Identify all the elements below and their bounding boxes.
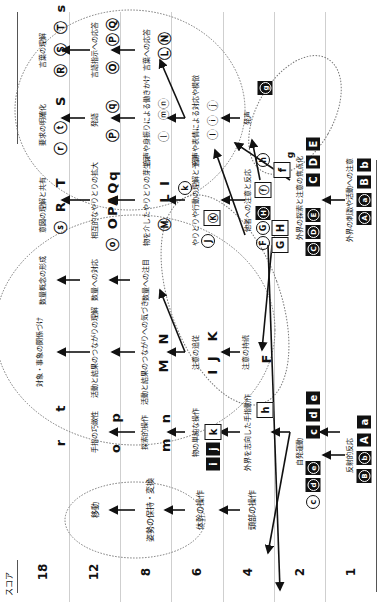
label-request-clarify: 要求の明確化 bbox=[39, 104, 47, 146]
sym-H-black: H bbox=[256, 206, 271, 220]
sym-a: a bbox=[357, 416, 371, 429]
sym-g-small: g bbox=[286, 152, 295, 158]
sym-h-circ: h bbox=[256, 153, 270, 167]
sym-b-circ: b bbox=[357, 451, 372, 465]
sym-e-circ: e bbox=[306, 461, 321, 475]
sym-k: k bbox=[205, 424, 222, 440]
sym-L-N: ⓁⓃ bbox=[160, 30, 169, 60]
sym-o-p: o p bbox=[111, 411, 120, 453]
label-vocal-gesture: 音声や身振りによる働きかけ bbox=[143, 75, 151, 166]
sym-r-t: r t bbox=[56, 404, 65, 447]
label-finger-dexterity: 手指の巧緻性 bbox=[91, 411, 99, 453]
score-6: 6 bbox=[193, 568, 202, 576]
label-activity-result-awareness: 活動と結果のつながりへの気づき bbox=[141, 300, 149, 405]
label-attention-sustain: 注意の持続 bbox=[242, 335, 250, 370]
sym-C-circ: C bbox=[306, 242, 321, 256]
score-18: 18 bbox=[39, 564, 48, 581]
sym-j: j bbox=[206, 443, 220, 456]
score-8: 8 bbox=[142, 568, 151, 576]
score-12: 12 bbox=[90, 564, 99, 581]
sym-H-box: H bbox=[272, 220, 289, 236]
label-vocal-imitation: 音声や表情による対応や模倣 bbox=[192, 75, 200, 166]
sym-B-circ: B bbox=[357, 469, 372, 483]
sym-g-black: g bbox=[258, 81, 273, 95]
score-4: 4 bbox=[244, 568, 253, 576]
sym-M-N: M N bbox=[159, 332, 168, 373]
score-2: 2 bbox=[296, 568, 305, 576]
sym-s-R-T: ⓢ R T bbox=[56, 176, 65, 233]
sym-F: F bbox=[262, 353, 271, 364]
label-exploration-focus: 外界の探索と注意の焦点化 bbox=[296, 156, 304, 240]
sym-R-S-T-s: Ⓡ Ⓢ Ⓣ s bbox=[56, 3, 65, 77]
label-outward-hand: 外界を志向した手指動作 bbox=[244, 394, 252, 471]
label-word-response: 言葉への応答 bbox=[143, 29, 151, 71]
sym-I-i-j: Ⓘ ⓘ ⓙ bbox=[209, 100, 218, 140]
sym-C: C bbox=[306, 174, 320, 187]
sym-c: c bbox=[306, 426, 320, 439]
sym-I-J-K: I J K bbox=[208, 329, 217, 374]
sym-d: d bbox=[306, 409, 320, 422]
label-number-concept: 数量概念の形成 bbox=[39, 256, 47, 305]
sym-f-circ-box: ⓕ bbox=[255, 182, 272, 198]
label-stimulus-attention: 外界の刺激や活動への注意 bbox=[346, 158, 354, 242]
sym-d-circ: d bbox=[306, 478, 321, 492]
sym-G-box: G bbox=[272, 237, 289, 253]
label-speech: 発語 bbox=[91, 113, 99, 127]
label-activity-result-understanding: 活動と結果のつながりの理解 bbox=[91, 307, 99, 398]
sym-M-L-I: Ⓜ L I bbox=[160, 179, 169, 231]
label-head: 頭部の操作 bbox=[248, 490, 257, 530]
sym-A: A bbox=[357, 434, 371, 447]
label-locomotion: 移動 bbox=[91, 502, 100, 518]
sym-O-P-Q: Ⓞ ⓅⓆ bbox=[108, 16, 117, 74]
label-intent-sharing: 意図の理解と共有 bbox=[39, 177, 47, 233]
label-trunk: 体幹の操作 bbox=[196, 490, 205, 530]
label-simple-manip: 物の単純な操作 bbox=[192, 408, 200, 457]
sym-i: i bbox=[206, 458, 220, 471]
label-mutual-exchange: 相互的なやりとりの拡大 bbox=[91, 162, 99, 239]
label-relating: 対象・事象の関係づけ bbox=[36, 317, 44, 387]
score-1: 1 bbox=[347, 568, 356, 576]
label-object-exchange: 物を介したやりとりの芽生え bbox=[143, 155, 151, 246]
label-spontaneous: 自発運動 bbox=[296, 438, 304, 466]
label-predict-behavior: やりとりや行動の理解と予測 bbox=[192, 155, 200, 246]
sym-E-circ: E bbox=[306, 208, 321, 222]
sym-F-circ: F bbox=[256, 236, 270, 250]
label-word-understanding: 言葉の理解 bbox=[39, 33, 47, 68]
label-number-attention: 数量への注目 bbox=[142, 259, 150, 301]
label-vocalization: 発声 bbox=[244, 111, 252, 125]
sym-c-circ: c bbox=[306, 495, 320, 509]
sym-k-circ: k bbox=[178, 181, 192, 195]
sym-D: D bbox=[306, 156, 320, 169]
sym-E: E bbox=[306, 138, 320, 151]
sym-l-m-n: ⓛ ⓜⓝ bbox=[160, 98, 169, 142]
sym-r-t-S: ⓡ ⓣ S bbox=[56, 95, 65, 156]
label-attention-others: 他者への注意と反応 bbox=[244, 169, 252, 232]
label-posture: 姿勢の保持・変換 bbox=[146, 478, 155, 542]
sym-A-circ: A bbox=[357, 211, 372, 225]
sym-a-circ: a bbox=[357, 193, 372, 207]
sym-OPAQq: ⓞ OPAQq bbox=[108, 169, 117, 250]
label-reflex: 反射的反応 bbox=[346, 438, 354, 473]
sym-P-q: Ⓟ ⓠ bbox=[108, 98, 117, 141]
sym-b: b bbox=[357, 159, 371, 172]
sym-B: B bbox=[357, 176, 371, 189]
label-number-response: 数量への対応 bbox=[91, 259, 99, 301]
sym-K-box: Ⓚ bbox=[204, 210, 221, 226]
sym-m-n: m n bbox=[161, 412, 170, 452]
sym-f-box: f bbox=[274, 162, 291, 178]
sym-h: h bbox=[257, 402, 274, 418]
sym-D-circ: D bbox=[306, 225, 321, 239]
sym-G-circ: G bbox=[256, 221, 270, 235]
label-verbal-instruction: 言語指示への応答 bbox=[91, 22, 99, 78]
sym-J-circ: J bbox=[201, 234, 215, 248]
sym-e: e bbox=[306, 392, 320, 405]
label-exploratory: 探索的操作 bbox=[141, 415, 149, 450]
label-attention-follow: 注意の追従 bbox=[192, 335, 200, 370]
axis-title: スコア bbox=[5, 572, 14, 596]
